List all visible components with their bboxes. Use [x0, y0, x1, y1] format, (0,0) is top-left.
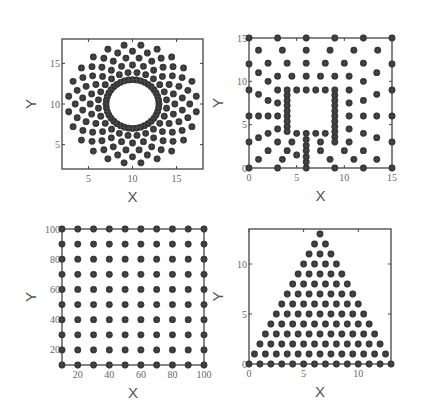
x-tick-label: 5 — [301, 368, 306, 379]
y-axis-label: Y — [209, 291, 226, 301]
data-points — [246, 231, 395, 368]
x-axis-label: X — [315, 383, 325, 400]
x-tick-label: 0 — [247, 368, 252, 379]
scatter-plot-triangle: 05100510XY — [0, 0, 438, 418]
x-tick-label: 10 — [353, 368, 363, 379]
subplot-triangle: 05100510XY — [0, 0, 438, 418]
y-tick-label: 5 — [242, 309, 247, 320]
y-tick-label: 10 — [237, 259, 247, 270]
